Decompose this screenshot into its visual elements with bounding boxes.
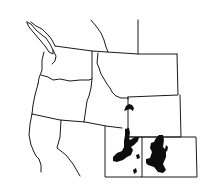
range-area-southeast-utah-dot-1: [136, 154, 140, 159]
range-area-eastern-utah: [113, 128, 139, 162]
washington-outline: [38, 51, 92, 84]
range-area-southeast-utah-dot-2: [133, 168, 137, 174]
range-area-western-colorado: [146, 135, 168, 173]
vancouver-island-outline: [27, 22, 53, 54]
wyoming-outline: [128, 95, 181, 137]
range-area-southwest-wyoming: [124, 104, 134, 111]
bc-river-line: [91, 20, 108, 52]
california-outline: [29, 114, 80, 176]
us-canada-border: [55, 46, 177, 54]
montana-outline: [128, 54, 178, 97]
colorado-outline: [142, 137, 197, 177]
idaho-montana-outline: [97, 53, 128, 99]
range-map: [0, 0, 211, 188]
